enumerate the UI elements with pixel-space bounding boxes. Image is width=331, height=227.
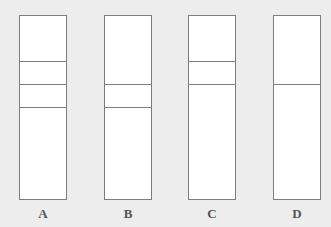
band-line	[105, 84, 151, 85]
band-line	[20, 107, 66, 108]
tube-a	[19, 15, 67, 200]
tube-c	[188, 15, 236, 200]
band-line	[20, 61, 66, 62]
tube-label-a: A	[19, 206, 67, 222]
band-line	[189, 84, 235, 85]
tube-d	[273, 15, 321, 200]
band-line	[105, 107, 151, 108]
tube-label-c: C	[188, 206, 236, 222]
band-line	[20, 84, 66, 85]
tube-label-d: D	[273, 206, 321, 222]
band-line	[274, 84, 320, 85]
tube-label-b: B	[104, 206, 152, 222]
band-line	[189, 61, 235, 62]
tube-b	[104, 15, 152, 200]
